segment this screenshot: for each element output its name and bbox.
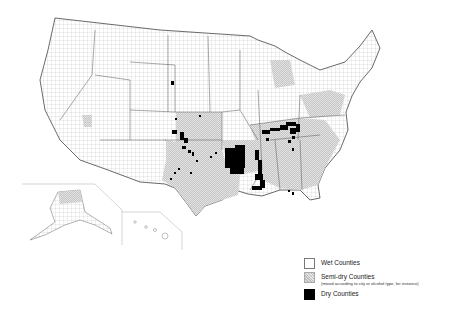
legend-label-group: Semi-dry Counties (mixed according to ci… (321, 272, 419, 286)
wet-swatch-icon (304, 258, 315, 269)
alaska-inset (22, 184, 122, 245)
legend-item-semi-dry: Semi-dry Counties (mixed according to ci… (304, 272, 463, 286)
semi-dry-swatch-icon (304, 272, 315, 283)
legend-label: Dry Counties (321, 289, 359, 298)
hawaii-inset (122, 212, 182, 250)
dry-swatch-icon (304, 289, 315, 300)
map-legend: Wet Counties Semi-dry Counties (mixed ac… (304, 258, 463, 303)
legend-item-wet: Wet Counties (304, 258, 463, 269)
legend-sublabel: (mixed according to city or alcohol type… (321, 281, 419, 286)
legend-label: Wet Counties (321, 258, 360, 267)
legend-label: Semi-dry Counties (321, 273, 374, 280)
legend-item-dry: Dry Counties (304, 289, 463, 300)
